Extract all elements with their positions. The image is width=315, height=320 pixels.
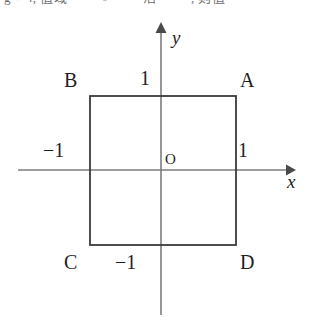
y-axis	[156, 22, 167, 315]
y-axis-arrowhead	[156, 22, 167, 33]
tick-label-x-negative-one: −1	[43, 140, 64, 160]
tick-label-y-positive-one: 1	[140, 68, 150, 88]
tick-label-y-negative-one: −1	[115, 252, 136, 272]
x-axis-label: x	[287, 172, 295, 191]
vertex-label-d: D	[240, 252, 254, 272]
vertex-label-a: A	[240, 70, 254, 90]
y-axis-label: y	[172, 28, 180, 47]
vertex-label-c: C	[64, 252, 77, 272]
vertex-label-b: B	[64, 70, 77, 90]
origin-label: O	[165, 152, 176, 167]
tick-label-x-positive-one: 1	[238, 140, 248, 160]
x-axis	[18, 165, 296, 176]
figure-page: g + 4, 值域 —— ○ —— 活 —— , 则值 B A C D 1 1 …	[0, 0, 315, 320]
